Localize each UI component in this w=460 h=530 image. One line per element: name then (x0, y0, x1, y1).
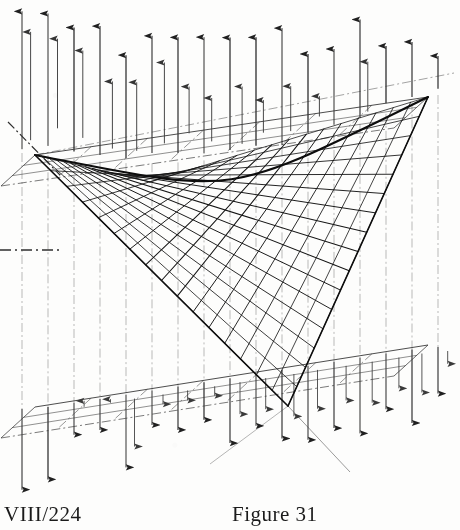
caption-bar: VIII/224 Figure 31 (0, 498, 460, 530)
bounding-box-wireframe (1, 97, 428, 438)
figure-canvas (0, 0, 460, 498)
caption-right: Figure 31 (232, 504, 318, 525)
figure-page: VIII/224 Figure 31 (0, 0, 460, 530)
caption-left: VIII/224 (4, 504, 81, 525)
vector-field-arrows (22, 11, 448, 489)
hyperbolic-paraboloid-drawing (0, 0, 460, 498)
